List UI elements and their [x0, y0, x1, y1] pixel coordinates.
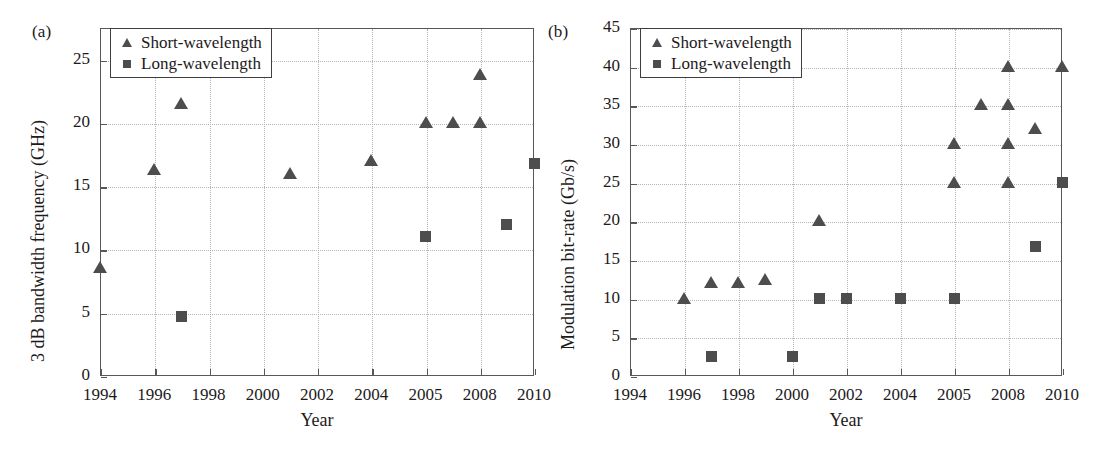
square-marker-icon [648, 60, 665, 68]
x-axis-tick-label: 2008 [450, 385, 510, 405]
x-gridline [481, 29, 482, 375]
legend-entry-long-wavelength: Long-wavelength [648, 53, 792, 74]
x-axis-tick [631, 369, 632, 375]
x-axis-tick-label: 2000 [762, 385, 822, 405]
y-axis-tick-label: 15 [42, 175, 90, 195]
y-gridline [631, 184, 1061, 185]
x-gridline [372, 29, 373, 375]
x-axis-tick [155, 369, 156, 375]
panel-a-plot-area [100, 28, 534, 376]
x-axis-tick-label: 2005 [924, 385, 984, 405]
x-axis-tick-label: 1996 [654, 385, 714, 405]
legend-label: Short-wavelength [141, 34, 262, 51]
y-axis-tick [631, 338, 637, 339]
legend-entry-short-wavelength: Short-wavelength [648, 32, 792, 53]
x-gridline [318, 29, 319, 375]
x-axis-tick [427, 369, 428, 375]
x-axis-tick [318, 369, 319, 375]
x-gridline [685, 29, 686, 375]
y-axis-tick-label: 0 [42, 365, 90, 385]
y-axis-tick-label: 10 [572, 288, 620, 308]
x-gridline [847, 29, 848, 375]
triangle-marker-icon [648, 38, 665, 47]
x-axis-tick-label: 2004 [341, 385, 401, 405]
panel-a-tag: (a) [32, 22, 51, 42]
y-axis-tick [631, 68, 637, 69]
y-axis-tick-label: 5 [572, 326, 620, 346]
y-gridline [631, 106, 1061, 107]
triangle-marker-icon [118, 38, 135, 47]
y-axis-tick [631, 261, 637, 262]
x-axis-tick-label: 2004 [870, 385, 930, 405]
y-gridline [631, 300, 1061, 301]
x-axis-tick-label: 2010 [1032, 385, 1092, 405]
x-axis-tick [901, 369, 902, 375]
legend-label: Long-wavelength [141, 55, 261, 72]
y-axis-tick [631, 29, 637, 30]
y-gridline [631, 222, 1061, 223]
y-gridline [101, 250, 533, 251]
y-gridline [631, 145, 1061, 146]
y-axis-tick-label: 25 [42, 49, 90, 69]
y-axis-tick-label: 10 [42, 238, 90, 258]
y-gridline [631, 261, 1061, 262]
x-axis-tick [739, 369, 740, 375]
y-axis-tick-label: 5 [42, 302, 90, 322]
y-axis-tick [631, 377, 637, 378]
x-axis-tick-label: 1998 [179, 385, 239, 405]
y-gridline [101, 187, 533, 188]
x-axis-tick-label: 2008 [978, 385, 1038, 405]
y-axis-tick-label: 0 [572, 365, 620, 385]
panel-b-legend: Short-wavelength Long-wavelength [640, 28, 802, 78]
y-axis-tick [631, 184, 637, 185]
y-axis-tick [101, 250, 107, 251]
square-marker-icon [118, 60, 135, 68]
y-axis-tick-label: 30 [572, 133, 620, 153]
y-axis-tick [101, 124, 107, 125]
x-axis-tick [481, 369, 482, 375]
x-gridline [155, 29, 156, 375]
x-axis-tick [210, 369, 211, 375]
legend-label: Long-wavelength [671, 55, 791, 72]
x-gridline [210, 29, 211, 375]
x-gridline [901, 29, 902, 375]
legend-entry-long-wavelength: Long-wavelength [118, 53, 262, 74]
figure-container: (a) 3 dB bandwidth frequency (GHz) Year … [0, 0, 1111, 459]
x-axis-tick [955, 369, 956, 375]
x-axis-tick [1063, 369, 1064, 375]
x-axis-tick [264, 369, 265, 375]
panel-a: (a) 3 dB bandwidth frequency (GHz) Year … [0, 0, 556, 459]
y-axis-tick [631, 222, 637, 223]
y-axis-tick [631, 300, 637, 301]
x-axis-tick-label: 2002 [287, 385, 347, 405]
x-gridline [739, 29, 740, 375]
x-gridline [793, 29, 794, 375]
x-axis-tick-label: 1994 [600, 385, 660, 405]
x-axis-tick [847, 369, 848, 375]
panel-b-tag: (b) [548, 22, 568, 42]
x-axis-tick-label: 2002 [816, 385, 876, 405]
x-axis-tick-label: 1994 [70, 385, 130, 405]
y-axis-tick-label: 40 [572, 56, 620, 76]
y-axis-tick-label: 20 [572, 210, 620, 230]
y-gridline [101, 314, 533, 315]
x-axis-tick-label: 1996 [124, 385, 184, 405]
legend-entry-short-wavelength: Short-wavelength [118, 32, 262, 53]
y-axis-tick-label: 45 [572, 17, 620, 37]
y-axis-tick [631, 106, 637, 107]
y-axis-tick [101, 314, 107, 315]
x-gridline [264, 29, 265, 375]
x-axis-tick [685, 369, 686, 375]
x-gridline [1009, 29, 1010, 375]
y-axis-tick-label: 20 [42, 112, 90, 132]
y-axis-tick [101, 377, 107, 378]
y-gridline [101, 124, 533, 125]
x-axis-tick [1009, 369, 1010, 375]
panel-b-x-axis-title: Year [630, 410, 1062, 431]
y-axis-tick [101, 187, 107, 188]
panel-a-legend: Short-wavelength Long-wavelength [110, 28, 272, 78]
y-axis-tick-label: 35 [572, 94, 620, 114]
y-axis-tick-label: 25 [572, 172, 620, 192]
y-gridline [631, 338, 1061, 339]
legend-label: Short-wavelength [671, 34, 792, 51]
